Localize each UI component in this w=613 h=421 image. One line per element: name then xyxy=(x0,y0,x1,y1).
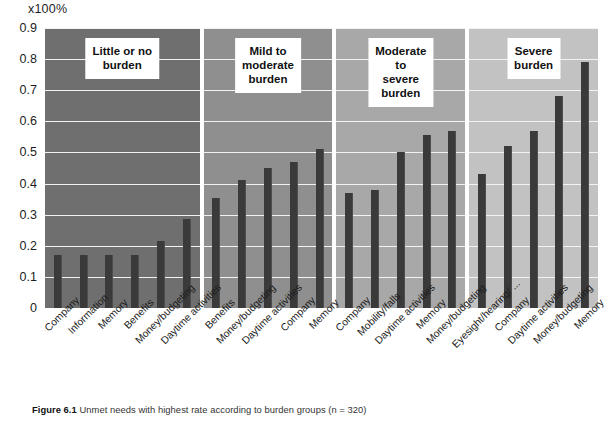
x-label-slot: Memory xyxy=(307,308,333,396)
x-label-slot: Mobility/falls xyxy=(362,308,388,396)
caption-label: Figure 6.1 xyxy=(32,404,77,415)
bar-slot xyxy=(204,28,230,308)
bar xyxy=(238,180,246,308)
x-label-slot: Company xyxy=(495,308,521,396)
x-label-slot: Benefits xyxy=(204,308,230,396)
bar xyxy=(316,149,324,308)
x-label-group: CompanyMobility/fallsDaytime activitiesM… xyxy=(336,308,465,396)
x-label-slot: Daytime activities xyxy=(521,308,547,396)
bar xyxy=(371,190,379,308)
bar-slot xyxy=(469,28,495,308)
panel-title: Moderate to severe burden xyxy=(368,38,433,107)
x-label-slot: Company xyxy=(45,308,71,396)
bar xyxy=(345,193,353,308)
x-label-slot: Company xyxy=(336,308,362,396)
x-label-slot: Company xyxy=(281,308,307,396)
x-label-slot: Money/budgeting xyxy=(547,308,573,396)
caption-text: Unmet needs with highest rate according … xyxy=(79,404,366,415)
bar xyxy=(530,131,538,308)
y-axis-tick: 0 xyxy=(30,301,37,315)
y-axis-tick: 0.2 xyxy=(20,239,37,253)
bar-slot xyxy=(572,28,598,308)
x-label-group: Eyesight/hearing/ ...CompanyDaytime acti… xyxy=(469,308,598,396)
bar xyxy=(80,255,88,308)
panel-title: Little or no burden xyxy=(86,38,159,79)
x-label-slot: Daytime activities xyxy=(174,308,200,396)
bar xyxy=(555,96,563,308)
figure-caption: Figure 6.1 Unmet needs with highest rate… xyxy=(32,404,367,415)
bar-slot xyxy=(174,28,200,308)
x-label-slot: Memory xyxy=(414,308,440,396)
bar xyxy=(157,241,165,308)
x-label-slot: Memory xyxy=(572,308,598,396)
plot-area: Little or no burdenMild to moderate burd… xyxy=(45,28,598,308)
bar xyxy=(54,255,62,308)
y-axis-tick: 0.3 xyxy=(20,208,37,222)
x-label-group: BenefitsMoney/budgetingDaytime activitie… xyxy=(204,308,333,396)
x-label-group: CompanyInformationMemoryBenefitsMoney/bu… xyxy=(45,308,200,396)
x-label-slot: Eyesight/hearing/ ... xyxy=(469,308,495,396)
y-axis-tick: 0.5 xyxy=(20,145,37,159)
panel-title: Severe burden xyxy=(507,38,560,79)
y-axis-tick: 0.4 xyxy=(20,177,37,191)
x-label-slot: Money/budgeting xyxy=(229,308,255,396)
x-label-slot: Money/budgeting xyxy=(439,308,465,396)
bar xyxy=(131,255,139,308)
y-axis-unit-label: x100% xyxy=(28,2,67,16)
bar-slot xyxy=(336,28,362,308)
bar xyxy=(448,131,456,308)
chart-panel: Moderate to severe burden xyxy=(336,28,465,308)
bar xyxy=(397,152,405,308)
bar-slot xyxy=(439,28,465,308)
chart-panel: Mild to moderate burden xyxy=(204,28,333,308)
bar-slot xyxy=(307,28,333,308)
x-label-slot: Memory xyxy=(97,308,123,396)
x-label-slot: Information xyxy=(71,308,97,396)
chart-panel: Severe burden xyxy=(469,28,598,308)
x-label-slot: Benefits xyxy=(122,308,148,396)
x-label-slot: Daytime activities xyxy=(388,308,414,396)
figure-container: x100% 0.90.80.70.60.50.40.30.20.10 Littl… xyxy=(0,0,613,421)
x-axis-labels: CompanyInformationMemoryBenefitsMoney/bu… xyxy=(45,308,598,396)
panel-title: Mild to moderate burden xyxy=(235,38,301,93)
y-axis-tick: 0.6 xyxy=(20,114,37,128)
y-axis-tick: 0.8 xyxy=(20,52,37,66)
y-axis: 0.90.80.70.60.50.40.30.20.10 xyxy=(0,28,42,308)
bar-slot xyxy=(45,28,71,308)
y-axis-tick: 0.9 xyxy=(20,21,37,35)
y-axis-tick: 0.1 xyxy=(20,270,37,284)
bar xyxy=(581,62,589,308)
chart-panel: Little or no burden xyxy=(45,28,200,308)
x-label-slot: Money/budgeting xyxy=(148,308,174,396)
y-axis-tick: 0.7 xyxy=(20,83,37,97)
x-label-slot: Daytime activities xyxy=(255,308,281,396)
